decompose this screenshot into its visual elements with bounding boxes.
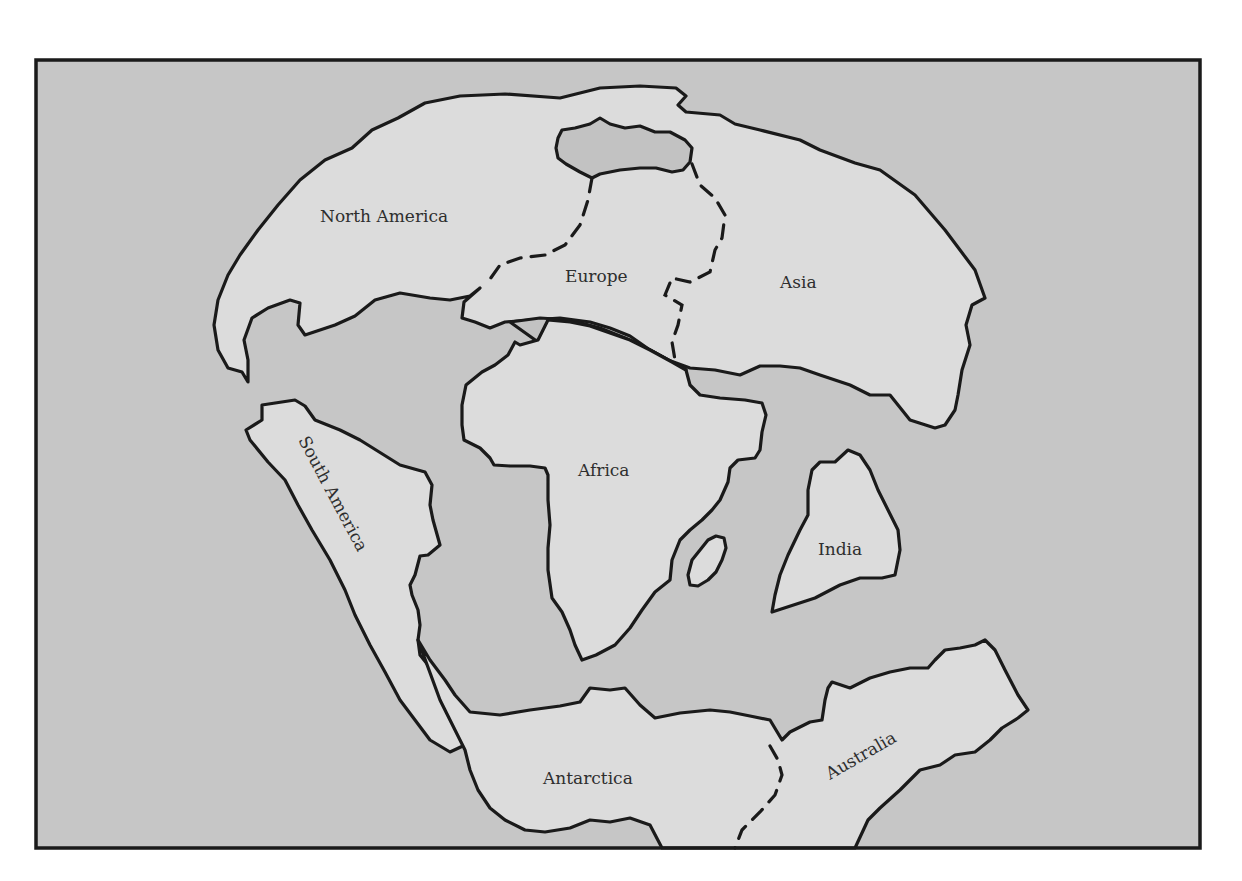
label-india: India xyxy=(818,539,862,559)
label-europe: Europe xyxy=(565,266,628,286)
pangaea-map: North America Europe Asia South America … xyxy=(0,0,1242,881)
label-africa: Africa xyxy=(577,460,630,480)
label-antarctica: Antarctica xyxy=(542,768,633,788)
label-north-america: North America xyxy=(320,206,448,226)
label-asia: Asia xyxy=(779,272,817,292)
